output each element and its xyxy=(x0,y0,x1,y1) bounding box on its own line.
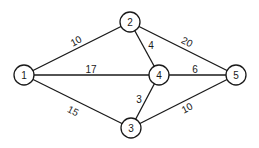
edge-1-2 xyxy=(24,22,130,75)
node-2: 2 xyxy=(120,12,140,32)
node-3: 3 xyxy=(121,118,141,138)
edge-weight-3-4: 3 xyxy=(136,94,142,105)
edge-2-5 xyxy=(130,22,236,75)
edge-weight-4-5: 6 xyxy=(192,64,198,75)
node-2-label: 2 xyxy=(127,17,133,28)
node-4-label: 4 xyxy=(156,70,162,81)
node-5-label: 5 xyxy=(233,70,239,81)
edge-1-3 xyxy=(24,75,131,128)
node-4: 4 xyxy=(149,65,169,85)
weighted-graph-diagram: 10 17 15 4 20 6 3 10 1 2 3 4 5 xyxy=(0,0,259,148)
node-1-label: 1 xyxy=(21,70,27,81)
node-3-label: 3 xyxy=(128,123,134,134)
node-1: 1 xyxy=(14,65,34,85)
edge-weight-2-4: 4 xyxy=(148,40,154,51)
edge-weight-1-4: 17 xyxy=(85,64,97,75)
edge-3-5 xyxy=(131,75,236,128)
node-5: 5 xyxy=(226,65,246,85)
edge-weight-1-3: 15 xyxy=(66,104,81,119)
